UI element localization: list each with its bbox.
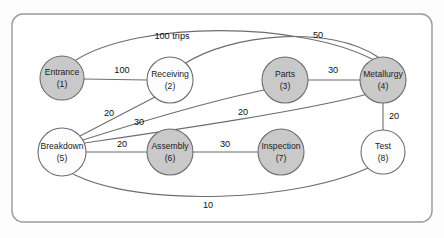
node-parts[interactable]: Parts(3): [262, 57, 308, 103]
node-metallurgy[interactable]: Metallurgy(4): [360, 57, 406, 103]
node-id-label: (4): [378, 81, 389, 91]
node-circle: [360, 57, 406, 103]
edge-metallurgy-test-label: 20: [389, 111, 399, 121]
edge-entrance-receiving-label: 100: [114, 65, 129, 75]
node-label: Metallurgy: [363, 69, 403, 79]
node-assembly[interactable]: Assembly(6): [147, 129, 193, 175]
edge-breakdown-assembly-label: 20: [117, 139, 127, 149]
node-label: Receiving: [151, 69, 189, 79]
node-circle: [258, 129, 304, 175]
node-circle: [38, 128, 86, 176]
node-breakdown[interactable]: Breakdown(5): [38, 128, 86, 176]
node-circle: [262, 57, 308, 103]
node-id-label: (2): [165, 81, 176, 91]
node-id-label: (1): [57, 79, 68, 89]
node-circle: [147, 129, 193, 175]
edge-parts-metallurgy-label: 30: [328, 65, 338, 75]
node-label: Parts: [275, 69, 295, 79]
node-id-label: (5): [57, 153, 68, 163]
edge-breakdown-metallurgy-label: 20: [238, 107, 248, 117]
node-id-label: (7): [276, 153, 287, 163]
node-label: Inspection: [261, 141, 300, 151]
node-circle: [147, 57, 193, 103]
diagram-canvas: Entrance(1)Receiving(2)Parts(3)Metallurg…: [0, 0, 444, 238]
node-label: Test: [375, 141, 391, 151]
network-diagram: Entrance(1)Receiving(2)Parts(3)Metallurg…: [0, 0, 444, 238]
edge-entrance-metallurgy-label: 100 trips: [154, 31, 190, 41]
node-id-label: (3): [280, 81, 291, 91]
node-circle: [40, 56, 84, 100]
edge-breakdown-receiving-label: 20: [104, 108, 114, 118]
edge-breakdown-test-label: 10: [203, 200, 213, 210]
node-entrance[interactable]: Entrance(1): [40, 56, 84, 100]
diagram-frame: [12, 14, 432, 222]
node-label: Entrance: [45, 67, 80, 77]
node-id-label: (6): [165, 153, 176, 163]
node-circle: [361, 130, 405, 174]
node-label: Breakdown: [41, 141, 84, 151]
edge-breakdown-parts-label: 30: [134, 117, 144, 127]
node-label: Assembly: [151, 141, 189, 151]
edge-receiving-metallurgy-label: 50: [313, 30, 323, 40]
node-id-label: (8): [378, 153, 389, 163]
edge-assembly-inspection-label: 30: [220, 139, 230, 149]
diagram-border: [12, 14, 432, 222]
node-inspection[interactable]: Inspection(7): [258, 129, 304, 175]
node-test[interactable]: Test(8): [361, 130, 405, 174]
node-receiving[interactable]: Receiving(2): [147, 57, 193, 103]
